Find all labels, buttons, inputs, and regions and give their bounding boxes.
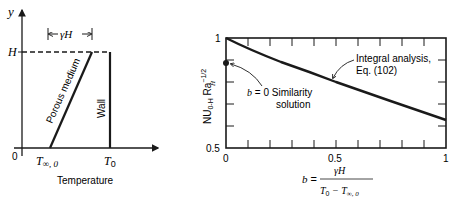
integral-arrow: [333, 60, 354, 78]
x-axis-label: b = γH T0 − T∞, 0: [302, 165, 373, 198]
y-axis-label: NU0-H Ra−1/2H: [200, 69, 217, 124]
origin-label: 0: [12, 151, 18, 162]
similarity-solution-point: [223, 60, 229, 66]
integral-annotation-line1: Integral analysis,: [356, 53, 431, 64]
x-axis-label: Temperature: [57, 175, 114, 186]
y-tick-0.5: 0.5: [206, 143, 220, 154]
x-tick-0.5: 0.5: [328, 153, 342, 164]
top-ticks: [248, 38, 424, 46]
y-axis-label: y: [6, 4, 14, 19]
right-chart: Integral analysis, Eq. (102) b = 0 Simil…: [200, 33, 449, 198]
x-tick-1: 1: [443, 153, 449, 164]
h-label: H: [7, 45, 18, 59]
porous-medium-label: Porous medium: [44, 56, 83, 124]
similarity-arrow: [231, 64, 262, 86]
gamma-h-label: γH: [60, 28, 73, 40]
left-diagram: y H γH Porous medium Wall 0 T∞, 0 T0 Tem…: [6, 4, 158, 186]
similarity-annotation-line1: b = 0 Similarity: [247, 87, 312, 98]
integral-analysis-curve: [226, 38, 446, 120]
wall-label: Wall: [96, 99, 107, 118]
t-inf-label: T∞, 0: [36, 154, 59, 169]
bottom-ticks: [248, 140, 424, 148]
y-tick-1: 1: [215, 33, 221, 44]
x-tick-0: 0: [223, 153, 229, 164]
integral-annotation-line2: Eq. (102): [356, 65, 397, 76]
similarity-annotation-line2: solution: [276, 99, 310, 110]
svg-text:γH: γH: [334, 165, 346, 176]
svg-text:b =: b =: [302, 173, 317, 185]
svg-text:T0 − T∞, 0: T0 − T∞, 0: [320, 185, 359, 198]
right-ticks: [438, 60, 446, 126]
left-ticks: [226, 60, 234, 126]
figure: y H γH Porous medium Wall 0 T∞, 0 T0 Tem…: [0, 0, 456, 204]
t0-label: T0: [104, 154, 116, 169]
